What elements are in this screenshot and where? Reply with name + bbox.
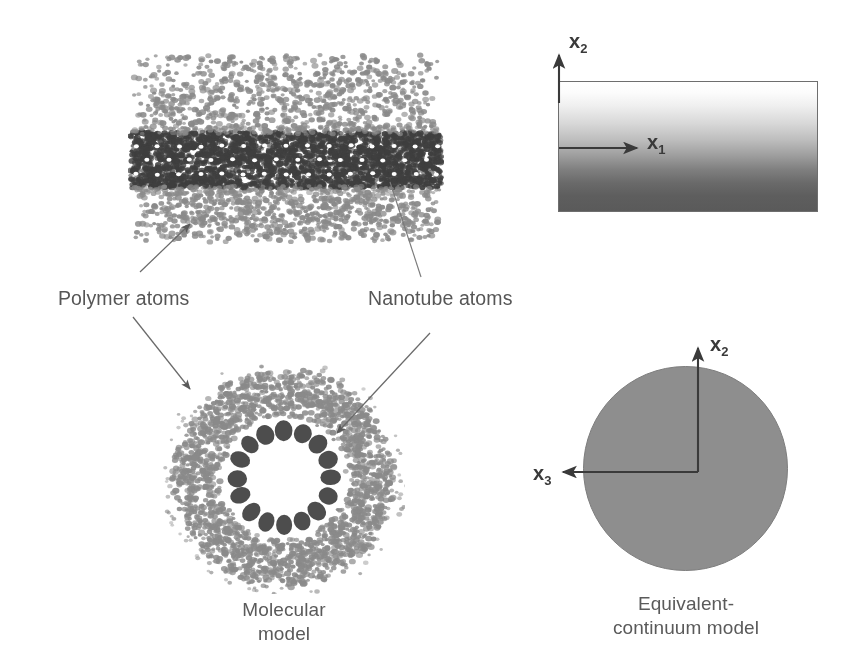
axis-label-x3-circle: x3	[533, 462, 551, 488]
figure-canvas: x2 x1 x2 x3 Polymer atoms Nanotube atoms…	[0, 0, 854, 669]
label-polymer-atoms: Polymer atoms	[58, 287, 189, 310]
molecular-model-cross-section	[163, 362, 405, 594]
equivalent-continuum-cylinder	[558, 81, 818, 212]
caption-molecular-model: Molecular model	[204, 598, 364, 647]
axis-label-x1-cylinder: x1	[647, 131, 665, 157]
molecular-model-side-view	[128, 48, 444, 246]
axis-label-x2-cylinder: x2	[569, 30, 587, 56]
axis-label-x2-circle: x2	[710, 333, 728, 359]
caption-equivalent-continuum-model: Equivalent- continuum model	[565, 592, 807, 641]
label-nanotube-atoms: Nanotube atoms	[368, 287, 513, 310]
equivalent-continuum-circle	[583, 366, 788, 571]
